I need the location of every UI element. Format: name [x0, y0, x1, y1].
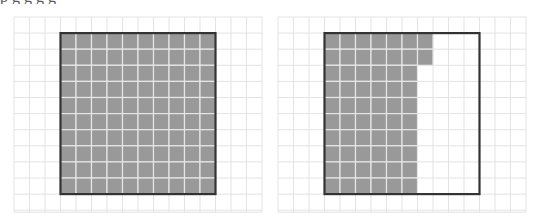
filled-square — [325, 65, 341, 81]
filled-square — [371, 162, 387, 178]
filled-square — [138, 178, 154, 194]
filled-square — [123, 49, 139, 65]
filled-square — [387, 146, 403, 162]
filled-square — [138, 49, 154, 65]
filled-square — [371, 178, 387, 194]
filled-square — [356, 49, 372, 65]
filled-square — [123, 178, 139, 194]
filled-square — [92, 98, 108, 114]
filled-square — [371, 98, 387, 114]
filled-square — [371, 33, 387, 49]
filled-square — [340, 162, 356, 178]
right-panel — [278, 17, 526, 212]
filled-square — [123, 33, 139, 49]
filled-square — [61, 130, 77, 146]
filled-square — [402, 98, 418, 114]
filled-square — [185, 98, 201, 114]
filled-square — [61, 178, 77, 194]
filled-square — [123, 98, 139, 114]
filled-square — [169, 81, 185, 97]
filled-square — [123, 65, 139, 81]
filled-square — [138, 130, 154, 146]
filled-square — [61, 114, 77, 130]
filled-square — [107, 81, 123, 97]
filled-square — [356, 162, 372, 178]
filled-square — [185, 114, 201, 130]
filled-square — [76, 98, 92, 114]
filled-square — [123, 130, 139, 146]
filled-square — [76, 81, 92, 97]
filled-squares — [61, 33, 216, 194]
filled-square — [200, 130, 216, 146]
filled-square — [200, 114, 216, 130]
filled-square — [169, 49, 185, 65]
filled-square — [200, 146, 216, 162]
filled-square — [154, 162, 170, 178]
filled-square — [154, 49, 170, 65]
filled-square — [154, 98, 170, 114]
filled-square — [185, 130, 201, 146]
filled-square — [138, 98, 154, 114]
filled-square — [76, 178, 92, 194]
filled-square — [61, 162, 77, 178]
filled-square — [169, 65, 185, 81]
filled-square — [402, 130, 418, 146]
filled-square — [185, 65, 201, 81]
filled-square — [340, 65, 356, 81]
filled-square — [200, 162, 216, 178]
filled-square — [76, 162, 92, 178]
filled-square — [418, 33, 434, 49]
filled-square — [92, 49, 108, 65]
filled-square — [356, 114, 372, 130]
filled-square — [402, 162, 418, 178]
filled-square — [200, 65, 216, 81]
filled-square — [169, 162, 185, 178]
filled-square — [123, 81, 139, 97]
filled-square — [138, 65, 154, 81]
filled-square — [325, 146, 341, 162]
filled-square — [356, 146, 372, 162]
filled-square — [200, 49, 216, 65]
filled-square — [200, 178, 216, 194]
filled-square — [356, 130, 372, 146]
filled-square — [185, 81, 201, 97]
filled-square — [371, 65, 387, 81]
filled-square — [123, 162, 139, 178]
filled-square — [123, 114, 139, 130]
filled-square — [387, 81, 403, 97]
filled-square — [92, 81, 108, 97]
filled-square — [138, 162, 154, 178]
filled-square — [92, 33, 108, 49]
filled-square — [107, 114, 123, 130]
filled-square — [325, 33, 341, 49]
filled-square — [402, 146, 418, 162]
filled-square — [154, 146, 170, 162]
filled-square — [340, 130, 356, 146]
filled-square — [371, 49, 387, 65]
filled-square — [185, 146, 201, 162]
filled-square — [356, 65, 372, 81]
filled-square — [61, 65, 77, 81]
filled-square — [61, 33, 77, 49]
filled-square — [356, 33, 372, 49]
filled-square — [185, 49, 201, 65]
filled-square — [61, 146, 77, 162]
filled-square — [76, 130, 92, 146]
filled-square — [325, 114, 341, 130]
filled-square — [123, 146, 139, 162]
filled-square — [138, 146, 154, 162]
filled-square — [107, 65, 123, 81]
filled-square — [200, 33, 216, 49]
filled-square — [76, 114, 92, 130]
filled-square — [387, 98, 403, 114]
filled-square — [200, 81, 216, 97]
filled-square — [340, 49, 356, 65]
filled-square — [169, 178, 185, 194]
filled-square — [61, 81, 77, 97]
filled-square — [169, 33, 185, 49]
filled-square — [185, 33, 201, 49]
filled-square — [107, 49, 123, 65]
filled-square — [107, 146, 123, 162]
filled-square — [61, 49, 77, 65]
filled-square — [340, 178, 356, 194]
